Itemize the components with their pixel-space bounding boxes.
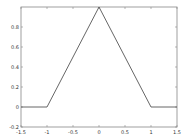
line-chart: -1.5-1-0.500.511.5 -0.200.20.40.60.8 <box>0 0 192 140</box>
y-tick-label: 0.2 <box>11 84 19 90</box>
x-tick-label: -0.5 <box>68 129 78 135</box>
y-tick-label: 0.6 <box>11 44 19 50</box>
plot-area <box>21 7 177 127</box>
y-tick-label: 0.8 <box>11 24 19 30</box>
y-tick-label: -0.2 <box>9 124 19 130</box>
y-tick-label: 0 <box>16 104 19 110</box>
x-tick-label: -1.5 <box>16 129 26 135</box>
x-tick-label: -1 <box>45 129 50 135</box>
x-tick-label: 1 <box>149 129 152 135</box>
x-tick-label: 1.5 <box>173 129 181 135</box>
y-tick-label: 0.4 <box>11 64 19 70</box>
x-tick-label: 0.5 <box>121 129 129 135</box>
x-tick-label: 0 <box>97 129 100 135</box>
